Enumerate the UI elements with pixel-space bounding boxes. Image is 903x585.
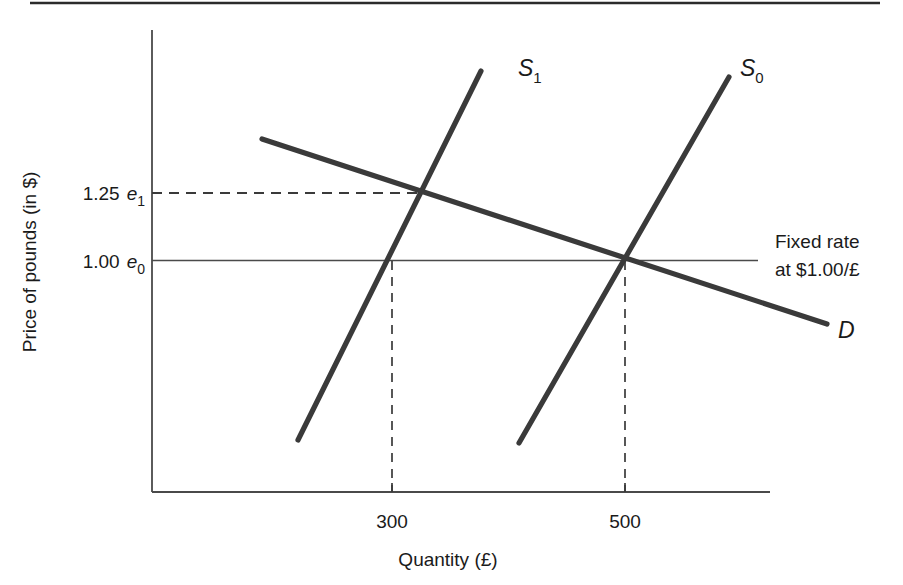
- curves-group: [262, 71, 827, 443]
- supply-curve-s1: [298, 71, 481, 440]
- x-tick-labels-group: 300 500: [376, 511, 641, 532]
- y-tick-label-100: 1.00e0: [83, 251, 146, 277]
- fixed-rate-annotation: Fixed rate at $1.00/£: [775, 231, 860, 280]
- demand-curve: [262, 139, 827, 324]
- y-tick-label-125: 1.25e1: [83, 183, 146, 209]
- chart-canvas: S1 S0 D Fixed rate at $1.00/£ 1.25e1 1.0…: [0, 0, 903, 585]
- y-tick-labels-group: 1.25e1 1.00e0: [83, 183, 146, 277]
- fixed-rate-annotation-line2: at $1.00/£: [775, 259, 860, 280]
- tick-marks-group: [392, 478, 625, 492]
- x-tick-label-300: 300: [376, 511, 408, 532]
- supply-curve-s0-label: S0: [740, 55, 764, 86]
- fixed-rate-annotation-line1: Fixed rate: [775, 231, 859, 252]
- economics-supply-demand-figure: S1 S0 D Fixed rate at $1.00/£ 1.25e1 1.0…: [0, 0, 903, 585]
- y-axis-title: Price of pounds (in $): [19, 172, 40, 353]
- x-tick-label-500: 500: [609, 511, 641, 532]
- curve-labels-group: S1 S0 D: [518, 55, 855, 343]
- demand-curve-label: D: [838, 317, 855, 343]
- supply-curve-s1-label: S1: [518, 55, 542, 86]
- x-axis-title: Quantity (£): [398, 549, 497, 570]
- reference-lines-group: [152, 193, 758, 492]
